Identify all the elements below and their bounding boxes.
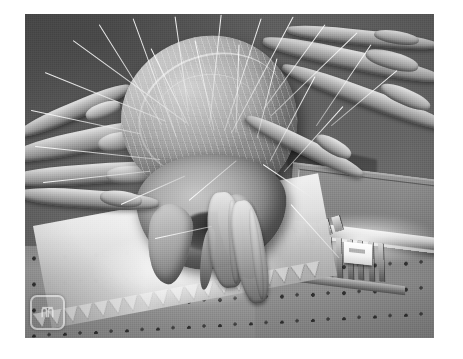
monogram-icon [39,304,56,321]
institution-logo [30,295,65,330]
screenshot-root [0,0,463,359]
comb-finger [378,243,384,282]
comb-finger [336,238,342,279]
sem-micrograph-image [25,14,434,338]
gear-tooth-secondary [331,215,343,231]
white-marker-block [344,242,372,266]
